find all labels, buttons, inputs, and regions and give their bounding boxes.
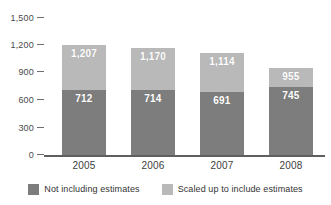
y-axis-tick-dash [37,44,44,45]
bar-value-upper-2007: 1,114 [209,57,234,67]
bar-value-upper-2005: 1,207 [71,49,97,59]
y-axis-tick-dash [37,127,44,128]
y-axis-tick-600: 600 [18,94,44,106]
legend-item-scaled-up-to-include-estimates[interactable]: Scaled up to include estimates [162,184,303,195]
y-axis-tick-dash [37,17,44,18]
bar-value-lower-2008: 745 [282,91,299,101]
bar-segment-lower-2005[interactable]: 712 [62,90,106,155]
y-axis-tick-dash [37,71,44,72]
y-axis-tick-label-300: 300 [18,123,34,133]
bar-segment-upper-2007[interactable]: 1,114 [200,53,244,92]
x-axis-label-2005: 2005 [54,160,114,171]
chart-legend: Not including estimates Scaled up to inc… [0,181,331,197]
bar-segment-upper-2008[interactable]: 955 [269,68,313,87]
x-axis-labels: 2005 2006 2007 2008 [44,160,325,176]
x-axis-label-2006: 2006 [123,160,183,171]
legend-swatch-icon [28,184,39,195]
x-axis-label-2007: 2007 [192,160,252,171]
legend-label-scaled-up-to-include-estimates: Scaled up to include estimates [178,184,303,194]
bar-value-lower-2007: 691 [213,96,230,106]
x-axis-baseline [44,155,325,157]
bar-segment-lower-2006[interactable]: 714 [131,90,175,155]
y-axis: 1,500 1,200 900 600 300 0 [0,0,44,170]
y-axis-tick-dash [37,154,44,155]
bar-segment-lower-2007[interactable]: 691 [200,92,244,155]
bar-group-2005[interactable]: 1,207 712 [62,45,106,155]
y-axis-tick-1200: 1,200 [10,39,44,51]
x-axis-label-2008: 2008 [261,160,321,171]
bar-value-upper-2008: 955 [282,72,299,82]
stacked-bar-chart: 1,500 1,200 900 600 300 0 1,207 [0,0,331,205]
bar-group-2006[interactable]: 1,170 714 [131,48,175,155]
y-axis-tick-label-600: 600 [18,95,34,105]
y-axis-tick-label-0: 0 [29,150,34,160]
y-axis-tick-300: 300 [18,122,44,134]
y-axis-tick-0: 0 [29,149,44,161]
legend-swatch-icon [162,184,173,195]
bar-group-2007[interactable]: 1,114 691 [200,53,244,155]
bar-group-2008[interactable]: 955 745 [269,68,313,155]
bar-value-upper-2006: 1,170 [140,52,166,62]
bar-value-lower-2005: 712 [75,94,92,104]
bars-layer: 1,207 712 1,170 714 1,114 691 955 [44,0,325,155]
y-axis-tick-900: 900 [18,66,44,78]
legend-item-not-including-estimates[interactable]: Not including estimates [28,184,139,195]
y-axis-tick-dash [37,99,44,100]
bar-segment-upper-2006[interactable]: 1,170 [131,48,175,90]
bar-value-lower-2006: 714 [144,94,161,104]
legend-label-not-including-estimates: Not including estimates [44,184,139,194]
bar-segment-lower-2008[interactable]: 745 [269,87,313,155]
y-axis-tick-label-900: 900 [18,67,34,77]
y-axis-tick-label-1500: 1,500 [10,13,34,23]
y-axis-tick-1500: 1,500 [10,12,44,24]
y-axis-tick-label-1200: 1,200 [10,40,34,50]
bar-segment-upper-2005[interactable]: 1,207 [62,45,106,90]
